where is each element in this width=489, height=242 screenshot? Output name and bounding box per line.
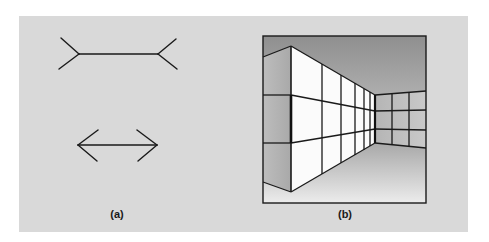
caption-a: (a) xyxy=(110,208,123,220)
muller-lyer-arrows-in xyxy=(78,130,157,161)
corridor-illustration xyxy=(263,36,426,203)
muller-lyer-fins-out xyxy=(59,38,177,69)
figure-drawing xyxy=(0,0,489,242)
caption-b: (b) xyxy=(338,208,352,220)
